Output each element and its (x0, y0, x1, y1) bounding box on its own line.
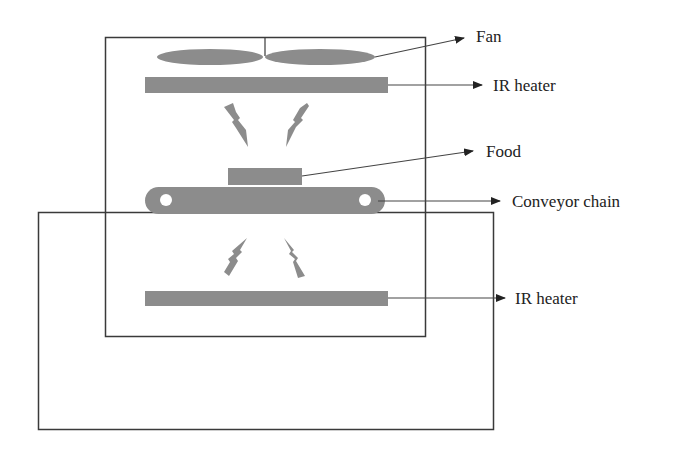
roller-right-icon (359, 194, 371, 206)
fan-leader-arrow (375, 38, 464, 57)
food-leader-arrow (302, 151, 473, 176)
diagram-canvas: Fan IR heater Food Conveyor chain IR hea… (0, 0, 680, 455)
conveyor-chain (145, 187, 385, 214)
roller-left-icon (160, 194, 172, 206)
label-ir-heater-bottom: IR heater (515, 289, 578, 308)
food-item (228, 168, 302, 185)
fan-icon (157, 38, 375, 65)
label-food: Food (486, 142, 521, 161)
label-fan: Fan (476, 27, 502, 46)
radiation-bottom-icon (224, 238, 305, 278)
ir-heater-bottom (145, 291, 388, 306)
label-ir-heater-top: IR heater (493, 76, 556, 95)
ir-heater-top (145, 77, 388, 93)
radiation-top-icon (224, 103, 309, 147)
ir-oven-diagram: Fan IR heater Food Conveyor chain IR hea… (0, 0, 680, 455)
label-conveyor-chain: Conveyor chain (512, 192, 621, 211)
